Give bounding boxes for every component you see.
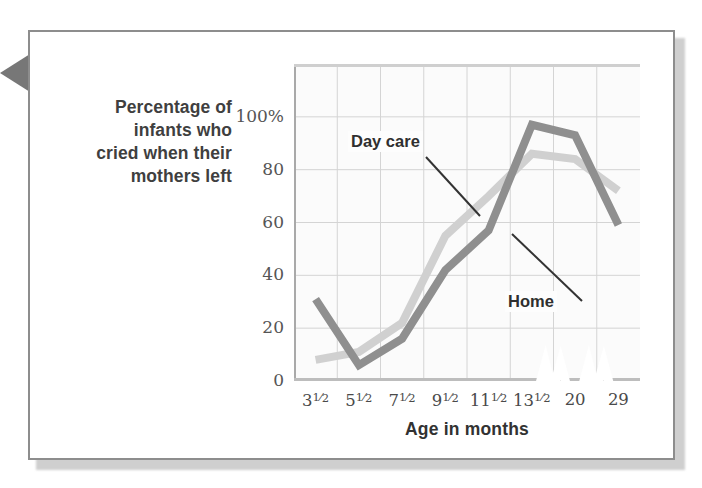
y-tick-label-80: 80 bbox=[222, 159, 284, 179]
y-tick-label-40: 40 bbox=[222, 264, 284, 284]
x-axis-title: Age in months bbox=[294, 419, 640, 440]
y-axis-title-line-4: mothers left bbox=[40, 165, 232, 188]
y-axis-title: Percentage of infants who cried when the… bbox=[40, 96, 232, 188]
y-axis-title-line-1: Percentage of bbox=[40, 96, 232, 119]
x-tick-label-7: 29 bbox=[590, 390, 646, 409]
y-tick-label-20: 20 bbox=[222, 317, 284, 337]
left-triangle-pointer-icon bbox=[0, 54, 30, 92]
y-tick-label-0: 0 bbox=[222, 370, 284, 390]
y-axis-title-line-2: infants who bbox=[40, 119, 232, 142]
y-tick-label-60: 60 bbox=[222, 212, 284, 232]
annotation-leader-lines bbox=[294, 64, 640, 381]
series-label-home: Home bbox=[505, 291, 557, 312]
y-axis-title-line-3: cried when their bbox=[40, 142, 232, 165]
plot-area bbox=[294, 64, 640, 381]
y-tick-label-100: 100% bbox=[222, 106, 284, 126]
series-label-day-care: Day care bbox=[348, 131, 423, 152]
